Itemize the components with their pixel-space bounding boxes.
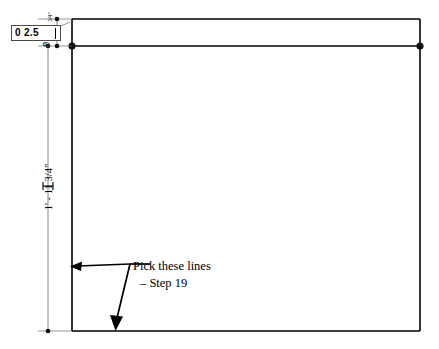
vertical-dim-grip-bottom[interactable] [46,329,51,334]
zero-tick-label: 0 [43,40,47,48]
vertical-dimension-label: 1' - 11 3/4" [36,152,60,222]
leader-lower-stem [117,264,130,318]
cad-vector-layer[interactable] [0,0,439,349]
top-small-dimension-label-text: 3/4" [47,12,53,22]
outer-rectangle[interactable] [72,19,420,331]
edit-box-connector-top [61,22,70,26]
callout-annotation-line2: – Step 19 [133,275,211,292]
callout-annotation-line1: Pick these lines [133,258,211,275]
top-dim-grip-lower[interactable] [55,44,60,49]
leader-line-lower [110,264,130,331]
leader-lower-arrowhead [110,315,123,331]
text-caret [55,28,56,39]
edit-box-connectors [61,22,70,26]
grip-point-right[interactable] [416,42,423,49]
dimension-text-edit[interactable]: 0 2.5 [11,25,61,41]
leader-upper-stem [78,264,130,266]
top-small-dimension-label: 3/4" [42,10,58,24]
zero-tick-label-text: 0 [43,40,47,48]
dimension-text-edit-value[interactable]: 0 2.5 [15,28,39,38]
vertical-dimension-label-text: 1' - 11 3/4" [43,164,54,210]
callout-annotation: Pick these lines – Step 19 [133,258,211,292]
cad-drawing-canvas[interactable]: 0 2.5 3/4" 0 1' - 11 3/4" Pick these lin… [0,0,439,349]
